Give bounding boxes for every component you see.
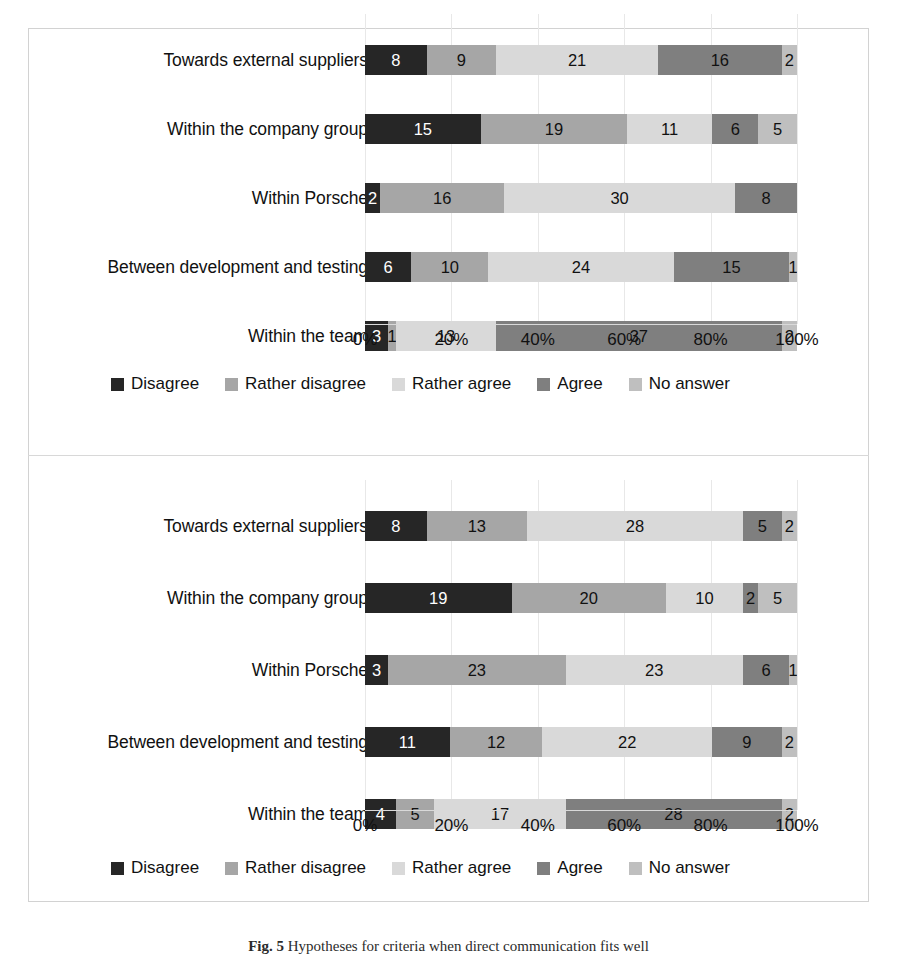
bar-segment-value: 16 (433, 190, 451, 207)
bar-segment[interactable]: 5 (758, 114, 797, 144)
legend-label: Rather disagree (245, 858, 366, 878)
legend-label: Rather disagree (245, 374, 366, 394)
bar-segment[interactable]: 8 (735, 183, 797, 213)
legend-label: No answer (649, 374, 730, 394)
bar-segment-value: 15 (722, 259, 740, 276)
bar-segment-value: 23 (468, 662, 486, 679)
bar-segment-value: 1 (789, 259, 797, 276)
legend-item[interactable]: Agree (537, 858, 602, 878)
bar-segment-value: 10 (695, 590, 713, 607)
bar-segment[interactable]: 9 (712, 727, 781, 757)
category-label: Within the team (248, 799, 368, 829)
category-label: Towards external suppliers (163, 511, 368, 541)
bar-segment[interactable]: 2 (365, 183, 380, 213)
bar-segment[interactable]: 8 (365, 45, 427, 75)
stacked-bar[interactable]: 3232361 (365, 655, 797, 685)
legend-item[interactable]: Rather disagree (225, 858, 366, 878)
category-label: Within the team (248, 321, 368, 351)
chart-row: Within the company group15191165 (0, 114, 841, 144)
bar-segment[interactable]: 11 (365, 727, 450, 757)
chart-legend: DisagreeRather disagreeRather agreeAgree… (0, 856, 841, 880)
bar-segment-value: 3 (372, 662, 381, 679)
bar-segment[interactable]: 21 (496, 45, 658, 75)
bar-segment[interactable]: 10 (411, 252, 488, 282)
bar-segment[interactable]: 1 (789, 252, 797, 282)
stacked-bar[interactable]: 2163080 (365, 183, 797, 213)
bar-segment[interactable]: 6 (365, 252, 411, 282)
bar-segment[interactable]: 1 (789, 655, 797, 685)
bar-segment[interactable]: 6 (712, 114, 758, 144)
bar-segment[interactable]: 28 (527, 511, 743, 541)
legend-item[interactable]: Agree (537, 374, 602, 394)
legend-item[interactable]: Rather agree (392, 374, 511, 394)
x-axis-tick-label: 20% (434, 816, 468, 836)
bar-segment[interactable]: 6 (743, 655, 789, 685)
bar-segment[interactable]: 2 (782, 45, 797, 75)
bar-segment-value: 6 (762, 662, 771, 679)
legend-swatch-icon (111, 862, 124, 875)
bar-segment[interactable]: 16 (380, 183, 503, 213)
chart-legend: DisagreeRather disagreeRather agreeAgree… (0, 372, 841, 396)
figure-page: Towards external suppliers8921162Within … (0, 0, 897, 956)
legend-label: Disagree (131, 374, 199, 394)
bar-segment[interactable]: 2 (743, 583, 758, 613)
bar-segment[interactable]: 11 (627, 114, 712, 144)
bar-segment[interactable]: 19 (481, 114, 628, 144)
bar-segment[interactable]: 8 (365, 511, 427, 541)
chart-row: Towards external suppliers8921162 (0, 45, 841, 75)
bar-segment[interactable]: 24 (488, 252, 673, 282)
bar-segment[interactable]: 3 (365, 655, 388, 685)
bar-segment[interactable]: 5 (758, 583, 797, 613)
x-axis-tick-label: 60% (607, 816, 641, 836)
legend-swatch-icon (392, 378, 405, 391)
legend-item[interactable]: No answer (629, 374, 730, 394)
legend-label: Agree (557, 374, 602, 394)
legend-item[interactable]: Rather disagree (225, 374, 366, 394)
legend-item[interactable]: Disagree (111, 858, 199, 878)
bar-segment[interactable]: 2 (782, 511, 797, 541)
stacked-bar[interactable]: 19201025 (365, 583, 797, 613)
bar-segment-value: 6 (384, 259, 393, 276)
bar-segment[interactable]: 20 (512, 583, 666, 613)
caption-prefix: Fig. 5 (248, 938, 284, 954)
bar-segment[interactable]: 15 (674, 252, 790, 282)
bar-segment-value: 5 (758, 518, 767, 535)
bar-segment[interactable]: 13 (427, 511, 527, 541)
bar-segment[interactable]: 23 (566, 655, 743, 685)
bar-segment-value: 2 (785, 734, 794, 751)
bar-segment[interactable]: 22 (542, 727, 712, 757)
stacked-bar[interactable]: 61024151 (365, 252, 797, 282)
legend-swatch-icon (537, 378, 550, 391)
bar-segment[interactable]: 23 (388, 655, 565, 685)
category-label: Within Porsche (252, 655, 368, 685)
legend-item[interactable]: No answer (629, 858, 730, 878)
legend-item[interactable]: Rather agree (392, 858, 511, 878)
category-label: Within the company group (167, 114, 368, 144)
stacked-bar[interactable]: 8132852 (365, 511, 797, 541)
bar-segment[interactable]: 16 (658, 45, 781, 75)
x-axis: 0%20%40%60%80%100% (365, 816, 797, 842)
bar-segment-value: 9 (742, 734, 751, 751)
bar-segment[interactable]: 30 (504, 183, 735, 213)
bar-segment[interactable]: 2 (782, 727, 797, 757)
stacked-bar[interactable]: 15191165 (365, 114, 797, 144)
x-axis-tick-label: 60% (607, 330, 641, 350)
bar-segment[interactable]: 10 (666, 583, 743, 613)
legend-label: Agree (557, 858, 602, 878)
legend-item[interactable]: Disagree (111, 374, 199, 394)
bar-segment[interactable]: 5 (743, 511, 782, 541)
bar-segment[interactable]: 9 (427, 45, 496, 75)
legend-swatch-icon (225, 862, 238, 875)
bar-segment-value: 22 (618, 734, 636, 751)
legend-label: Rather agree (412, 374, 511, 394)
bar-segment[interactable]: 12 (450, 727, 543, 757)
bar-segment-value: 28 (626, 518, 644, 535)
bar-segment-value: 30 (610, 190, 628, 207)
stacked-bar[interactable]: 8921162 (365, 45, 797, 75)
x-axis-line (365, 324, 797, 325)
category-label: Within Porsche (252, 183, 368, 213)
stacked-bar[interactable]: 11122292 (365, 727, 797, 757)
bar-segment-value: 12 (487, 734, 505, 751)
bar-segment[interactable]: 15 (365, 114, 481, 144)
bar-segment[interactable]: 19 (365, 583, 512, 613)
